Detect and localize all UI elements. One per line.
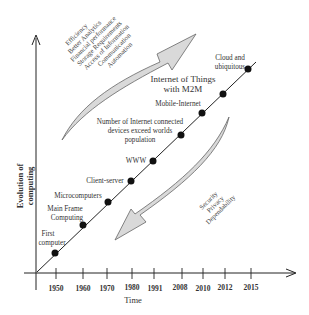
x-tick-label: 1970	[100, 284, 115, 293]
milestone-label: Internet of Things	[151, 74, 216, 84]
milestone-label: ubiquitous	[215, 63, 246, 71]
milestone-dots	[52, 66, 252, 257]
x-tick-label: 2015	[244, 283, 259, 292]
milestone-label: Client-server	[86, 177, 124, 185]
milestone-dot	[80, 222, 87, 229]
x-tick-label: 1991	[148, 284, 163, 293]
x-axis	[24, 268, 296, 279]
milestone-label: computer	[38, 239, 66, 247]
x-tick-label: 1960	[76, 284, 91, 293]
x-tick-label: 2008	[173, 283, 188, 292]
milestone-label: Computing	[51, 214, 84, 222]
milestone-label: Cloud and	[215, 54, 245, 62]
x-tick-label: 1980	[125, 283, 140, 292]
milestone-label: Number of Internet connected	[97, 118, 184, 126]
x-axis-title: Time	[124, 295, 142, 305]
x-tick-labels: 1950 1960 1970 1980 1991 2008 2010 2012 …	[49, 283, 259, 293]
milestone-label: population	[125, 136, 156, 144]
milestone-dot	[220, 91, 227, 98]
milestone-dot	[199, 110, 206, 117]
milestone-dot	[150, 158, 157, 165]
evolution-diagram: 1950 1960 1970 1980 1991 2008 2010 2012 …	[0, 0, 309, 315]
milestone-label: Microcomputers	[54, 192, 102, 200]
x-tick-label: 2012	[218, 283, 233, 292]
milestone-dot	[105, 199, 112, 206]
x-tick-label: 2010	[196, 284, 211, 293]
x-tick-label: 1950	[49, 284, 64, 293]
milestone-label: devices exceed worlds	[108, 127, 173, 135]
milestone-label: Mobile-Internet	[155, 100, 201, 108]
svg-text:Evolution of: Evolution of	[15, 164, 25, 209]
milestone-label: Main Frame	[47, 205, 82, 213]
y-axis	[32, 35, 40, 290]
milestone-label: First	[41, 230, 54, 238]
svg-text:computing: computing	[25, 166, 35, 205]
milestone-dot	[178, 132, 185, 139]
challenges-list: Security Privacy Dependability	[194, 182, 237, 225]
milestone-label: with M2M	[164, 84, 203, 94]
y-axis-title: Evolution of computing	[15, 164, 35, 209]
milestone-dot	[245, 66, 252, 73]
milestone-label: WWW	[126, 157, 147, 165]
benefits-list: Efficiency Better Analytics Financial pe…	[58, 1, 141, 84]
milestone-dot	[52, 250, 59, 257]
milestone-dot	[128, 178, 135, 185]
